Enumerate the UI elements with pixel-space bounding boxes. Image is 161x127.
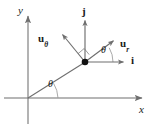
- diagram-canvas: [0, 0, 161, 127]
- u-theta-label-subscript: θ: [44, 40, 48, 49]
- angle-arc-point: [109, 48, 113, 62]
- u-r-label: ur: [120, 38, 129, 52]
- u-theta-arrow: [63, 35, 86, 63]
- i-hat-label: i: [131, 55, 134, 66]
- y-axis-label: y: [18, 5, 23, 16]
- particle-point: [82, 59, 89, 66]
- vector-arrows-group: [63, 21, 124, 63]
- angle-arc-origin: [54, 83, 59, 98]
- right-angle-marker: [78, 49, 89, 55]
- angle-label-at-point: θ: [101, 45, 106, 55]
- x-axis-label: x: [139, 104, 144, 115]
- vector-diagram-figure: y x uθ ur j i θ θ: [0, 0, 161, 127]
- angle-label-at-origin: θ: [48, 79, 53, 89]
- u-r-arrow: [85, 41, 114, 62]
- u-theta-label: uθ: [38, 33, 48, 47]
- j-hat-label: j: [82, 6, 86, 17]
- u-r-label-subscript: r: [126, 45, 129, 54]
